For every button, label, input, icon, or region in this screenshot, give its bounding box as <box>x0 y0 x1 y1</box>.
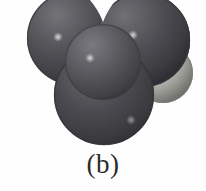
figure-panel: (b) <box>0 0 206 191</box>
sphere-center-front-highlight <box>85 53 95 63</box>
figure-caption: (b) <box>0 148 206 180</box>
molecule-model-image <box>0 0 206 150</box>
sphere-upper-left-highlight <box>53 32 63 42</box>
sphere-bottom-highlight <box>126 115 136 125</box>
molecule-svg <box>0 0 206 150</box>
